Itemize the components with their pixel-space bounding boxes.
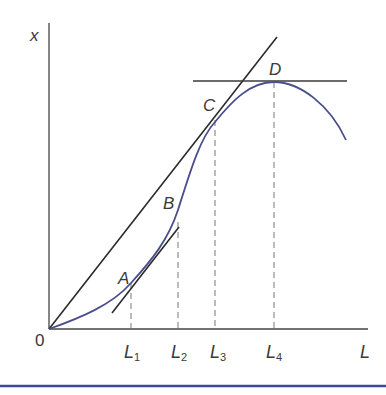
point-label-b: B <box>163 194 174 213</box>
tick-label-l3: L3 <box>210 342 226 363</box>
point-label-c: C <box>203 96 216 115</box>
y-axis-label: x <box>29 26 39 45</box>
tick-label-l4: L4 <box>266 342 282 363</box>
tick-label-l1: L1 <box>124 342 140 363</box>
origin-label: 0 <box>35 331 44 350</box>
point-label-d: D <box>269 60 281 79</box>
point-label-a: A <box>117 269 129 288</box>
tick-label-l2: L2 <box>171 342 187 363</box>
total-product-curve <box>49 82 346 329</box>
x-axis-label: L <box>360 342 370 362</box>
diagram-canvas: x 0 L A B C D L1 L2 L3 L4 <box>0 0 386 395</box>
